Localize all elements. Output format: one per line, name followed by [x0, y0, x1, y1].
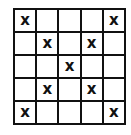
grid-cell: [82, 10, 102, 31]
x-pattern-grid: x x x x x x x x x: [13, 8, 126, 125]
grid-cell: [82, 56, 102, 77]
grid-cell: [59, 102, 79, 123]
grid-cell: [59, 33, 79, 54]
grid-cell: [104, 56, 124, 77]
grid-cell: [82, 102, 102, 123]
grid-cell: [104, 33, 124, 54]
grid-cell: [37, 56, 57, 77]
grid-cell: [37, 102, 57, 123]
grid-cell: x: [15, 102, 35, 123]
grid-cell: [15, 79, 35, 100]
grid-cell: [104, 79, 124, 100]
grid-cell: [37, 10, 57, 31]
grid-cell: x: [104, 102, 124, 123]
grid-cell: [59, 10, 79, 31]
grid-cell: [59, 79, 79, 100]
grid-cell: x: [37, 33, 57, 54]
grid-cell: x: [82, 33, 102, 54]
grid-cell: [15, 56, 35, 77]
grid-cell: x: [104, 10, 124, 31]
grid-cell: x: [15, 10, 35, 31]
grid-cell: x: [59, 56, 79, 77]
grid-cell: x: [82, 79, 102, 100]
grid-cell: x: [37, 79, 57, 100]
grid-cell: [15, 33, 35, 54]
